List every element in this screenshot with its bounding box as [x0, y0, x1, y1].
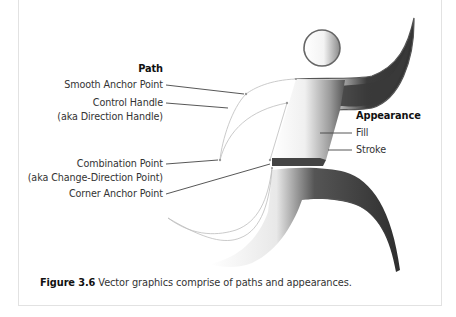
- label-smooth-anchor-point: Smooth Anchor Point: [40, 79, 163, 91]
- path-heading: Path: [120, 63, 163, 75]
- label-control-handle: Control Handle: [40, 97, 163, 109]
- label-control-handle-aka: (aka Direction Handle): [40, 111, 163, 123]
- appearance-heading: Appearance: [356, 110, 421, 122]
- label-stroke: Stroke: [356, 144, 386, 156]
- caption-text: Vector graphics comprise of paths and ap…: [95, 277, 351, 288]
- label-combination-point: Combination Point: [30, 158, 163, 170]
- label-corner-anchor-point: Corner Anchor Point: [30, 188, 163, 200]
- head-shape: [303, 30, 340, 66]
- figure-number: Figure 3.6: [40, 277, 95, 288]
- label-combination-point-aka: (aka Change-Direction Point): [10, 172, 163, 184]
- label-fill: Fill: [356, 127, 368, 139]
- leg-shape: [210, 168, 400, 272]
- figure-caption: Figure 3.6 Vector graphics comprise of p…: [40, 277, 352, 288]
- torso-shape: [272, 79, 345, 166]
